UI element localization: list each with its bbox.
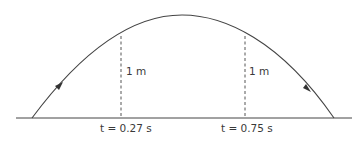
trajectory-curve — [32, 15, 334, 118]
projectile-diagram — [0, 0, 364, 142]
height-label-1: 1 m — [126, 66, 146, 77]
height-label-2: 1 m — [249, 66, 269, 77]
arrow-up-icon — [55, 82, 63, 90]
time-label-1: t = 0.27 s — [100, 123, 152, 134]
time-label-2: t = 0.75 s — [221, 123, 273, 134]
arrow-down-icon — [303, 84, 311, 92]
